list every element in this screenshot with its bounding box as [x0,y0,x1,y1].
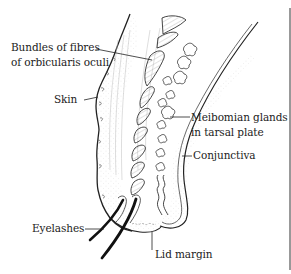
label-bundles-of-fibres: Bundles of fibres [11,41,100,54]
label-eyelashes: Eyelashes [32,222,84,235]
label-skin: Skin [54,93,77,106]
label-tarsal-plate: in tarsal plate [191,126,264,139]
meibomian-duct [157,175,168,215]
label-lid-margin: Lid margin [155,248,212,261]
eyelid-cross-section-diagram: Bundles of fibres of orbicularis oculi S… [0,0,291,274]
label-orbicularis-oculi: of orbicularis oculi [11,56,109,69]
label-meibomian-glands: Meibomian glands [191,111,288,124]
label-conjunctiva: Conjunctiva [193,149,255,162]
